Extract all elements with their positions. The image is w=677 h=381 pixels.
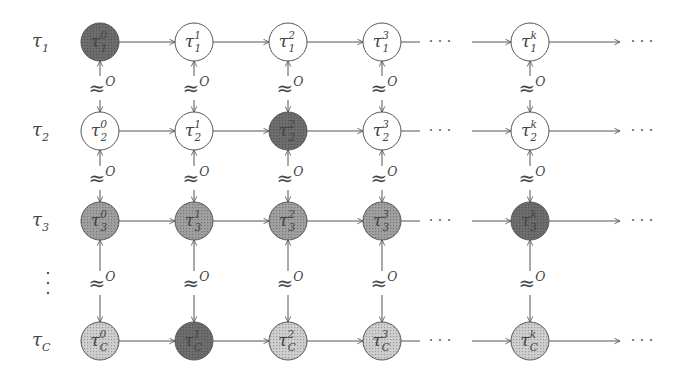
node-label: τ02 xyxy=(91,118,108,143)
approx-relation-label: ≈O xyxy=(519,269,546,295)
ellipsis: · · · xyxy=(429,332,451,348)
approx-relation-label: ≈O xyxy=(183,74,210,100)
ellipsis: · · · xyxy=(429,122,451,138)
node-label: τ23 xyxy=(279,208,296,233)
row-label: τ3 xyxy=(32,209,49,234)
node-label: τk1 xyxy=(521,29,537,54)
approx-relation-label: ≈O xyxy=(371,164,398,190)
vertical-ellipsis xyxy=(47,272,49,274)
row-label: τ2 xyxy=(32,119,49,144)
approx-relation-label: ≈O xyxy=(519,164,546,190)
node-label: τ2C xyxy=(278,328,296,353)
ellipsis: · · · xyxy=(631,122,653,138)
task-lattice-diagram: · · ·· · ·· · ·· · ·· · ·· · ·· · ·· · ·… xyxy=(0,0,677,381)
ellipsis: · · · xyxy=(631,212,653,228)
node-label: τ03 xyxy=(91,208,108,233)
node-label: τ0C xyxy=(90,328,108,353)
node-label: τ33 xyxy=(373,208,390,233)
node-label: τ01 xyxy=(91,29,107,54)
approx-relation-label: ≈O xyxy=(89,164,116,190)
ellipsis: · · · xyxy=(631,332,653,348)
approx-relation-label: ≈O xyxy=(183,269,210,295)
node-label: τ1C xyxy=(184,328,202,353)
ellipsis: · · · xyxy=(429,212,451,228)
approx-relation-label: ≈O xyxy=(277,269,304,295)
approx-relation-label: ≈O xyxy=(519,74,546,100)
vertical-ellipsis xyxy=(47,292,49,294)
row-label: τ1 xyxy=(32,30,49,55)
approx-relation-label: ≈O xyxy=(277,74,304,100)
approx-relation-label: ≈O xyxy=(89,74,116,100)
node-label: τ12 xyxy=(185,118,202,143)
node-label: τ32 xyxy=(373,118,390,143)
node-label: τ22 xyxy=(279,118,296,143)
node-label: τk3 xyxy=(521,208,537,233)
labels-layer: · · ·· · ·· · ·· · ·· · ·· · ·· · ·· · ·… xyxy=(32,29,653,354)
node-label: τkC xyxy=(520,328,537,353)
node-label: τ13 xyxy=(185,208,202,233)
approx-relation-label: ≈O xyxy=(183,164,210,190)
vertical-ellipsis xyxy=(47,282,49,284)
ellipsis: · · · xyxy=(429,33,451,49)
node-label: τ21 xyxy=(279,29,295,54)
node-label: τ31 xyxy=(373,29,389,54)
approx-relation-label: ≈O xyxy=(371,269,398,295)
ellipsis: · · · xyxy=(631,33,653,49)
node-label: τ11 xyxy=(185,29,201,54)
approx-relation-label: ≈O xyxy=(371,74,398,100)
node-label: τ3C xyxy=(372,328,390,353)
approx-relation-label: ≈O xyxy=(277,164,304,190)
approx-relation-label: ≈O xyxy=(89,269,116,295)
node-label: τk2 xyxy=(521,118,537,143)
nodes-layer xyxy=(81,23,549,360)
row-label: τC xyxy=(32,329,51,354)
